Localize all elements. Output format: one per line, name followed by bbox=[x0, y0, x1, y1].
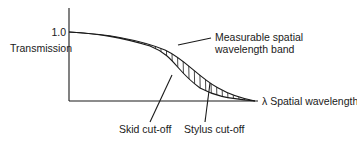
y-tick-label: 1.0 bbox=[51, 26, 66, 38]
y-axis-label: Transmission bbox=[10, 42, 72, 54]
stylus-cutoff-label: Stylus cut-off bbox=[184, 123, 245, 135]
hatch-line bbox=[128, 25, 130, 105]
hatch-line bbox=[199, 25, 201, 105]
hatch-line bbox=[183, 25, 185, 105]
hatch-line bbox=[139, 25, 141, 105]
skid-cutoff-label: Skid cut-off bbox=[119, 123, 171, 135]
x-axis-label: λ Spatial wavelength bbox=[262, 95, 357, 107]
band-label-line1: Measurable spatial bbox=[215, 31, 303, 43]
hatch-line bbox=[172, 25, 174, 105]
hatch-line bbox=[144, 25, 146, 105]
skid-leader-line bbox=[150, 75, 172, 122]
hatch-line bbox=[205, 25, 207, 105]
band-leader-line bbox=[178, 38, 211, 45]
hatch-line bbox=[161, 25, 163, 105]
hatch-line bbox=[177, 25, 179, 105]
hatch-line bbox=[194, 25, 196, 105]
hatch-line bbox=[155, 25, 157, 105]
hatch-line bbox=[122, 25, 124, 105]
hatch-line bbox=[133, 25, 135, 105]
hatch-line bbox=[106, 25, 108, 105]
band-label-line2: wavelength band bbox=[214, 43, 295, 55]
hatch-line bbox=[100, 25, 102, 105]
hatch-line bbox=[150, 25, 152, 105]
transmission-diagram: 1.0 Transmission Measurable spatial wave… bbox=[0, 0, 357, 149]
hatch-line bbox=[166, 25, 168, 105]
